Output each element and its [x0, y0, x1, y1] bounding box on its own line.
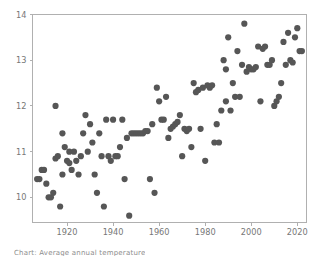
data-point — [71, 149, 77, 155]
data-point — [43, 181, 49, 187]
data-point — [197, 126, 203, 132]
data-point — [126, 213, 132, 219]
data-point — [186, 126, 192, 132]
data-point — [292, 34, 298, 40]
data-point — [147, 176, 153, 182]
data-point — [36, 176, 42, 182]
data-point — [225, 34, 231, 40]
x-tick-label: 1980 — [195, 227, 216, 237]
data-point — [276, 94, 282, 100]
data-point — [119, 117, 125, 123]
data-point — [66, 160, 72, 166]
data-point — [62, 144, 68, 150]
data-point — [87, 121, 93, 127]
x-axis-ticks: 192019401960198020002020 — [57, 223, 308, 237]
data-point — [75, 171, 81, 177]
data-point — [59, 171, 65, 177]
x-tick-label: 1920 — [57, 227, 78, 237]
data-point — [257, 98, 263, 104]
data-point — [214, 121, 220, 127]
data-point — [278, 80, 284, 86]
data-point — [285, 30, 291, 36]
data-point — [94, 190, 100, 196]
x-tick-label: 2020 — [287, 227, 308, 237]
data-point — [124, 135, 130, 141]
data-point — [122, 176, 128, 182]
data-point — [98, 153, 104, 159]
y-tick-label: 13 — [16, 55, 26, 65]
y-tick-label: 11 — [16, 147, 26, 157]
data-point — [89, 139, 95, 145]
data-point — [78, 153, 84, 159]
data-point — [80, 130, 86, 136]
data-point — [57, 203, 63, 209]
data-point — [41, 167, 47, 173]
data-point — [216, 139, 222, 145]
data-point — [283, 62, 289, 68]
data-point — [154, 85, 160, 91]
data-point — [239, 62, 245, 68]
data-point — [191, 80, 197, 86]
data-point — [262, 43, 268, 49]
data-point — [108, 158, 114, 164]
data-point — [156, 98, 162, 104]
data-point — [241, 21, 247, 27]
data-point — [85, 149, 91, 155]
data-point — [165, 135, 171, 141]
data-point — [149, 121, 155, 127]
x-tick-label: 2000 — [241, 227, 262, 237]
figure-caption: Chart: Average annual temperature — [14, 248, 145, 256]
data-point — [294, 25, 300, 31]
data-point — [69, 167, 75, 173]
data-point — [290, 59, 296, 65]
data-point — [50, 190, 56, 196]
data-point — [103, 117, 109, 123]
data-point — [117, 144, 123, 150]
data-point — [237, 94, 243, 100]
data-point — [218, 107, 224, 113]
data-point — [280, 39, 286, 45]
data-point — [227, 107, 233, 113]
x-tick-label: 1960 — [149, 227, 170, 237]
data-point — [55, 153, 61, 159]
data-point — [269, 57, 275, 63]
data-point — [174, 119, 180, 125]
data-point — [73, 158, 79, 164]
data-point — [145, 128, 151, 134]
data-point — [188, 144, 194, 150]
data-point — [299, 48, 305, 54]
data-point — [101, 203, 107, 209]
y-tick-label: 10 — [16, 192, 26, 202]
data-point — [82, 112, 88, 118]
data-point — [221, 57, 227, 63]
data-point — [96, 130, 102, 136]
data-point — [92, 171, 98, 177]
data-point — [110, 117, 116, 123]
data-point — [151, 190, 157, 196]
y-tick-label: 12 — [16, 101, 26, 111]
data-point — [179, 153, 185, 159]
data-point — [115, 153, 121, 159]
data-point — [177, 112, 183, 118]
y-axis-ticks: 1011121314 — [16, 10, 32, 203]
data-point — [209, 82, 215, 88]
data-point — [234, 48, 240, 54]
data-point — [202, 158, 208, 164]
data-point — [52, 103, 58, 109]
data-points-layer — [34, 21, 305, 219]
data-point — [223, 66, 229, 72]
data-point — [223, 98, 229, 104]
data-point — [161, 117, 167, 123]
data-point — [163, 94, 169, 100]
data-point — [230, 80, 236, 86]
x-tick-label: 1940 — [103, 227, 124, 237]
data-point — [59, 130, 65, 136]
data-point — [253, 64, 259, 70]
y-tick-label: 14 — [16, 10, 26, 20]
